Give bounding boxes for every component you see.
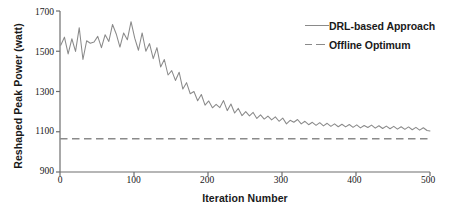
legend-dashed-line-icon: [305, 40, 329, 50]
legend-label-offline-optimum: Offline Optimum: [329, 39, 411, 51]
legend-item-drl-based-approach: DRL-based Approach: [305, 16, 450, 35]
x-axis-title: Iteration Number: [60, 192, 430, 204]
legend: DRL-based Approach Offline Optimum: [305, 16, 450, 54]
legend-item-offline-optimum: Offline Optimum: [305, 35, 450, 54]
legend-label-drl-based-approach: DRL-based Approach: [329, 20, 435, 32]
legend-solid-line-icon: [305, 21, 329, 31]
chart-figure: Reshaped Peak Power (watt) 1700 1500 130…: [0, 0, 452, 213]
